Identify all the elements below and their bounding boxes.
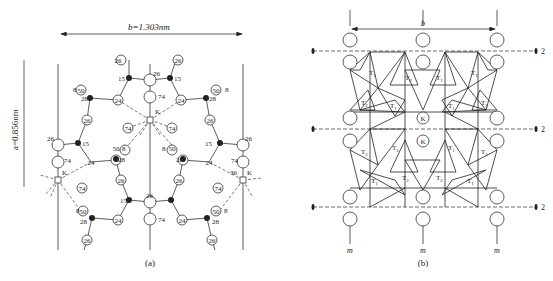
svg-text:T2: T2 — [361, 148, 368, 157]
svg-text:8: 8 — [224, 207, 228, 215]
svg-text:28: 28 — [80, 218, 88, 226]
svg-text:24: 24 — [179, 217, 187, 225]
svg-text:26: 26 — [175, 57, 183, 65]
a-dimension-label: a=0.856nm — [10, 109, 20, 150]
svg-text:26: 26 — [84, 237, 92, 245]
svg-text:T1: T1 — [481, 148, 488, 157]
svg-text:2: 2 — [541, 125, 545, 134]
svg-text:K: K — [420, 115, 425, 123]
svg-text:24: 24 — [206, 159, 214, 167]
svg-text:m: m — [494, 246, 500, 255]
svg-text:K: K — [155, 108, 160, 116]
svg-text:15: 15 — [118, 75, 126, 83]
svg-text:8: 8 — [225, 86, 229, 94]
svg-text:K: K — [420, 138, 425, 146]
svg-text:T1: T1 — [467, 177, 474, 186]
svg-text:28: 28 — [176, 156, 184, 164]
svg-text:T1: T1 — [471, 69, 478, 78]
svg-text:24: 24 — [88, 159, 96, 167]
svg-text:T2: T2 — [481, 99, 488, 108]
svg-text:24: 24 — [115, 97, 123, 105]
svg-text:74: 74 — [125, 125, 133, 133]
svg-text:15: 15 — [205, 140, 213, 148]
svg-text:28: 28 — [118, 156, 126, 164]
svg-text:K: K — [247, 169, 252, 177]
svg-text:74: 74 — [64, 157, 72, 165]
svg-text:26: 26 — [84, 117, 92, 125]
svg-text:50: 50 — [213, 208, 221, 216]
svg-text:T2: T2 — [402, 174, 409, 183]
svg-text:26: 26 — [153, 70, 161, 78]
svg-text:T1: T1 — [390, 102, 397, 111]
svg-text:8: 8 — [122, 145, 126, 153]
svg-text:74: 74 — [169, 125, 177, 133]
svg-text:74: 74 — [79, 185, 87, 193]
svg-text:T2: T2 — [405, 74, 412, 83]
svg-text:28: 28 — [81, 95, 89, 103]
svg-text:26: 26 — [207, 117, 215, 125]
svg-text:8: 8 — [162, 145, 166, 153]
panel-b-caption: (b) — [418, 258, 429, 268]
svg-text:T1: T1 — [436, 74, 443, 83]
svg-text:28: 28 — [212, 218, 220, 226]
svg-text:T1: T1 — [448, 102, 455, 111]
svg-text:26: 26 — [146, 192, 154, 200]
b-dimension-label: b=1.303nm — [128, 22, 170, 32]
svg-text:74: 74 — [158, 93, 166, 101]
svg-text:50: 50 — [80, 208, 88, 216]
svg-text:74: 74 — [231, 157, 239, 165]
svg-text:T1: T1 — [448, 144, 455, 153]
svg-text:28: 28 — [209, 95, 217, 103]
svg-text:50: 50 — [113, 145, 121, 153]
svg-text:74: 74 — [158, 216, 166, 224]
svg-text:2: 2 — [541, 203, 545, 212]
svg-text:T2: T2 — [436, 174, 443, 183]
svg-text:50: 50 — [213, 87, 221, 95]
feldspar-structure-diagram: b=1.303nm a=0.856nm 26 26 15 15 26 74 K … — [0, 0, 553, 281]
panel-a-labels: b=1.303nm a=0.856nm 26 26 15 15 26 74 K … — [10, 22, 253, 268]
svg-text:T1: T1 — [371, 177, 378, 186]
svg-text:T1: T1 — [392, 144, 399, 153]
svg-text:2: 2 — [541, 47, 545, 56]
svg-text:26: 26 — [47, 135, 55, 143]
svg-text:T2: T2 — [361, 99, 368, 108]
svg-text:15: 15 — [82, 140, 90, 148]
svg-text:26: 26 — [176, 177, 184, 185]
panel-a — [24, 34, 262, 250]
svg-text:15: 15 — [174, 75, 182, 83]
svg-text:m: m — [420, 246, 426, 255]
svg-text:26: 26 — [209, 237, 217, 245]
panel-a-caption: (a) — [145, 258, 155, 268]
svg-text:T1: T1 — [369, 69, 376, 78]
svg-text:m: m — [347, 246, 353, 255]
svg-text:24: 24 — [115, 217, 123, 225]
svg-text:50: 50 — [169, 145, 177, 153]
svg-text:36: 36 — [230, 169, 238, 177]
svg-text:15: 15 — [120, 197, 128, 205]
svg-text:26: 26 — [118, 177, 126, 185]
svg-text:24: 24 — [178, 97, 186, 105]
svg-text:26: 26 — [115, 57, 123, 65]
svg-text:26: 26 — [245, 135, 253, 143]
svg-text:74: 74 — [215, 185, 223, 193]
panel-b — [312, 10, 538, 244]
svg-text:K: K — [62, 169, 67, 177]
svg-text:50: 50 — [78, 87, 86, 95]
b-label: b — [421, 19, 425, 28]
svg-text:8: 8 — [73, 86, 77, 94]
